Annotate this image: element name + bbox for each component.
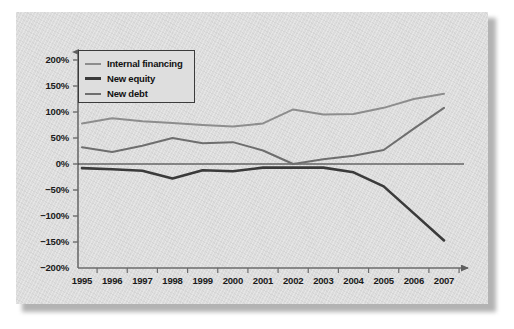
x-tick-label: 1999 (187, 275, 219, 286)
x-tick-label: 1995 (66, 275, 98, 286)
x-tick-label: 2007 (428, 275, 460, 286)
x-tick-label: 1998 (157, 275, 189, 286)
y-tick-label: 200% (16, 54, 69, 65)
x-tick-label: 2006 (398, 275, 430, 286)
x-tick-label: 1997 (126, 275, 158, 286)
chart-legend: Internal financing New equity New debt (78, 50, 195, 103)
legend-item-new-equity: New equity (85, 71, 155, 86)
y-tick-label: 50% (16, 132, 69, 143)
legend-swatch-internal-financing (85, 63, 101, 65)
legend-swatch-new-debt (85, 93, 101, 95)
chart-panel: 200%150%100%50%0%−50%−100%−150%−200% 199… (16, 12, 488, 304)
y-tick-label: −100% (16, 210, 69, 221)
y-tick-label: −50% (16, 184, 69, 195)
legend-label-internal-financing: Internal financing (107, 58, 183, 69)
legend-item-new-debt: New debt (85, 86, 148, 101)
x-tick-label: 2000 (217, 275, 249, 286)
x-tick-label: 1996 (96, 275, 128, 286)
x-tick-label: 2003 (307, 275, 339, 286)
y-tick-label: 100% (16, 106, 69, 117)
x-tick-label: 2005 (368, 275, 400, 286)
series-lines (82, 94, 444, 241)
legend-label-new-debt: New debt (107, 88, 148, 99)
y-tick-label: −200% (16, 262, 69, 273)
y-tick-label: 0% (16, 158, 69, 169)
legend-item-internal-financing: Internal financing (85, 56, 183, 71)
x-tick-label: 2004 (338, 275, 370, 286)
x-tick-label: 2002 (277, 275, 309, 286)
y-tick-label: −150% (16, 236, 69, 247)
legend-swatch-new-equity (85, 77, 101, 80)
y-tick-label: 150% (16, 80, 69, 91)
figure-root: 200%150%100%50%0%−50%−100%−150%−200% 199… (0, 0, 514, 329)
x-tick-label: 2001 (247, 275, 279, 286)
legend-label-new-equity: New equity (107, 73, 155, 84)
